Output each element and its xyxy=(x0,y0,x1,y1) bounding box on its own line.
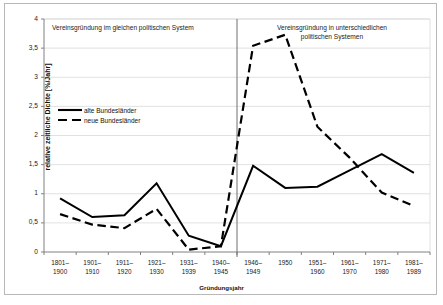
y-tick-label: 4 xyxy=(16,15,38,22)
x-tick-label: 1981–1989 xyxy=(394,258,434,277)
y-tick-label: 3,5 xyxy=(16,44,38,51)
y-tick-label: 3 xyxy=(16,73,38,80)
annotation-left-region: Vereinsgründung im gleichen politischen … xyxy=(52,24,194,31)
y-tick-label: 0 xyxy=(16,248,38,255)
annotation-right-region: Vereinsgründung in unterschiedlichen pol… xyxy=(257,24,407,42)
y-axis-title: relative zeitliche Dichte [%/Jahr] xyxy=(36,42,54,192)
y-tick-label: 1 xyxy=(16,189,38,196)
chart-legend: alte Bundesländer neue Bundesländer xyxy=(57,105,155,125)
legend-label-alte-bundeslaender: alte Bundesländer xyxy=(84,107,136,114)
legend-swatch-dashed-icon xyxy=(57,115,83,125)
legend-label-neue-bundeslaender: neue Bundesländer xyxy=(84,117,140,124)
y-tick-label: 1,5 xyxy=(16,160,38,167)
figure-container: relative zeitliche Dichte [%/Jahr] Verei… xyxy=(0,0,443,305)
x-tick-label-line1: 1981– xyxy=(394,258,434,267)
legend-swatch-solid-icon xyxy=(57,105,83,115)
x-tick-label-line2: 1949 xyxy=(233,267,273,276)
y-axis-title-text: relative zeitliche Dichte [%/Jahr] xyxy=(44,64,51,171)
y-tick-label: 2,5 xyxy=(16,102,38,109)
x-axis-title: Gründungsjahr xyxy=(0,284,443,291)
plot-area xyxy=(41,19,430,257)
annotation-right-line1: Vereinsgründung in unterschiedlichen xyxy=(277,24,387,31)
y-tick-label: 2 xyxy=(16,131,38,138)
y-tick-label: 0,5 xyxy=(16,218,38,225)
legend-item-neue-bundeslaender: neue Bundesländer xyxy=(57,115,155,125)
x-tick-label-line2: 1989 xyxy=(394,267,434,276)
annotation-right-line2: politischen Systemen xyxy=(301,33,363,40)
legend-item-alte-bundeslaender: alte Bundesländer xyxy=(57,105,155,115)
